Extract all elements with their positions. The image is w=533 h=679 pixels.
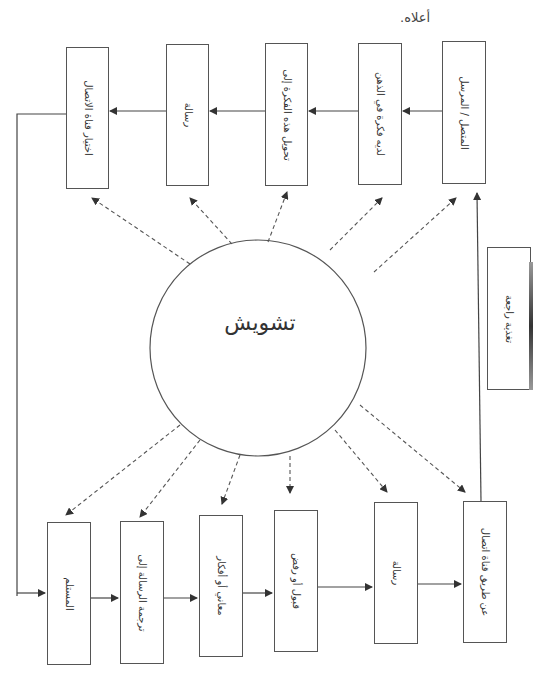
noise-label: تشويش (210, 310, 310, 335)
box-idea-in-mind: لديه فكرة في الذهن (358, 43, 402, 185)
box-sender: المتصل / المرسل (442, 41, 486, 184)
box-decode: ترجمة الرسالة إلى (120, 521, 164, 664)
box-message-received: رسالة (374, 502, 418, 644)
box-meanings: معاني أو أفكار (199, 515, 243, 657)
box-label: ترجمة الرسالة إلى (137, 554, 148, 631)
box-label: تغذية راجعة (504, 294, 515, 342)
box-label: لديه فكرة في الذهن (375, 72, 386, 156)
box-label: معاني أو أفكار (216, 556, 227, 615)
box-label: تحويل هذه الفكرة إلى (281, 69, 292, 160)
box-label: اختيار قناة الاتصال (82, 80, 93, 156)
box-accept-reject: قبول أو رفض (274, 510, 318, 652)
noise-circle (150, 240, 366, 456)
box-label: المتصل / المرسل (459, 76, 470, 150)
box-label: رسالة (391, 561, 402, 586)
box-label: عن طريق قناة اتصال (480, 528, 491, 616)
box-receiver: المستلم (47, 522, 91, 665)
page-edge-shadow (529, 262, 533, 390)
box-message: رسالة (166, 44, 209, 186)
box-label: قبول أو رفض (291, 553, 302, 609)
box-feedback: تغذية راجعة (487, 247, 531, 390)
box-label: رسالة (182, 103, 193, 128)
box-label: المستلم (64, 577, 75, 611)
box-via-channel: عن طريق قناة اتصال (463, 501, 507, 643)
box-choose-channel: اختيار قناة الاتصال (66, 47, 109, 189)
box-encode: تحويل هذه الفكرة إلى (265, 43, 308, 186)
